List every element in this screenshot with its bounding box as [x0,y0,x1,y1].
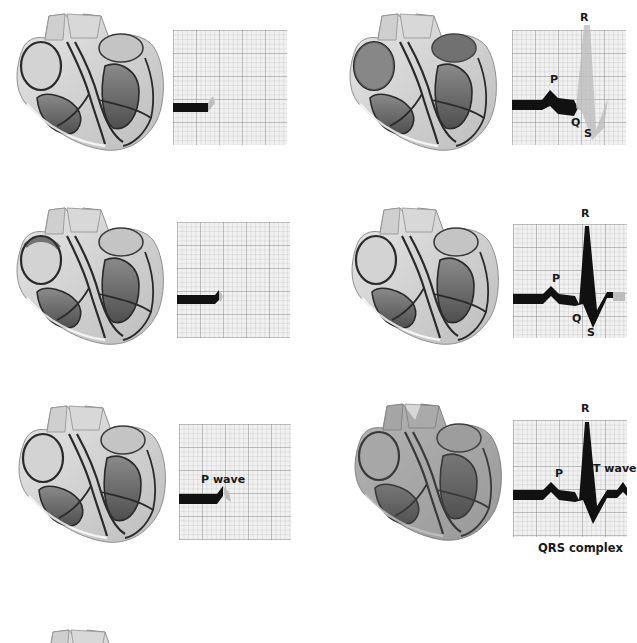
ecg-strip-4 [512,30,626,145]
heart-cross-section-3 [7,400,169,548]
heart-cross-section-5 [340,202,502,350]
ecg-trace-p-start [177,222,290,338]
ecg-trace-baseline [173,30,287,145]
label-s: S [587,326,595,339]
label-q: Q [571,116,580,129]
ecg-trace-qrs-start [512,30,626,145]
label-s: S [584,127,592,140]
ecg-trace-full-cycle [513,420,627,537]
label-r: R [581,402,589,415]
label-t-wave: T wave [593,462,637,475]
label-p: P [552,272,560,285]
heart-cross-section-7-partial [9,624,171,643]
ecg-strip-2 [177,222,290,338]
heart-cross-section-4 [338,8,500,156]
heart-cross-section-6 [343,398,505,546]
label-p: P [550,73,558,86]
heart-cross-section-1 [5,8,167,156]
label-r: R [580,11,588,24]
heart-cross-section-2 [5,202,167,350]
ecg-strip-1 [173,30,287,145]
ecg-strip-5 [513,224,627,338]
ecg-strip-6 [513,420,627,537]
label-r: R [581,207,589,220]
label-p-wave: P wave [201,473,245,486]
label-qrs-complex: QRS complex [538,541,623,555]
label-q: Q [572,312,581,325]
ecg-trace-qrs [513,224,627,338]
label-p: P [555,467,563,480]
